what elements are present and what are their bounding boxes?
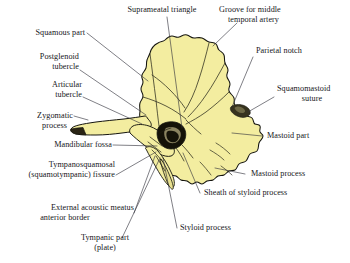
label-postglenoid-tubercle-line2: tubercle <box>0 62 79 72</box>
label-articular-tubercle-line1: Articular <box>0 80 82 90</box>
label-external-acoustic-meatus-line1: External acoustic meatus <box>0 203 134 213</box>
temporal-bone-diagram: Suprameatal triangle Groove for middle t… <box>0 0 350 263</box>
leader-squamous-part <box>87 33 148 81</box>
label-tympanosquamosal-fissure-line2: (squamotympanic) fissure <box>0 170 115 180</box>
label-articular-tubercle-line2: tubercle <box>0 90 82 100</box>
label-parietal-notch: Parietal notch <box>256 46 350 56</box>
label-external-acoustic-meatus-line2: anterior border <box>0 213 130 223</box>
label-sheath-of-styloid-process: Sheath of styloid process <box>204 188 350 198</box>
label-mandibular-fossa: Mandibular fossa <box>0 140 112 150</box>
label-squamous-part: Squamous part <box>0 28 85 38</box>
leader-tympanic-part <box>122 158 160 238</box>
leader-external-acoustic-meatus <box>134 156 155 213</box>
leader-tympanosquamosal-fissure <box>116 152 156 175</box>
label-groove-middle-temporal-artery-line2: temporal artery <box>228 15 350 25</box>
leader-groove-middle-temporal-artery <box>213 23 237 46</box>
leader-parietal-notch <box>232 57 253 107</box>
label-groove-middle-temporal-artery-line1: Groove for middle <box>219 5 349 15</box>
label-squamomastoid-suture-line1: Squamomastoid <box>277 84 350 94</box>
zygomatic-process-tip <box>71 128 86 135</box>
label-postglenoid-tubercle-line1: Postglenoid <box>0 52 79 62</box>
label-zygomatic-process-line1: Zygomatic <box>0 111 73 121</box>
label-squamomastoid-suture-line2: suture <box>277 94 347 104</box>
label-suprameatal-triangle: Suprameatal triangle <box>92 5 232 15</box>
leader-zygomatic-process <box>74 116 88 120</box>
label-mastoid-part: Mastoid part <box>267 131 350 141</box>
label-mastoid-process: Mastoid process <box>251 169 350 179</box>
label-styloid-process: Styloid process <box>180 223 280 233</box>
label-tympanosquamosal-fissure-line1: Tympanosquamosal <box>0 160 115 170</box>
label-tympanic-part-line1: Tympanic part <box>62 233 148 243</box>
leader-squamomastoid-suture <box>248 97 274 112</box>
label-zygomatic-process-line2: process <box>0 121 67 131</box>
leader-postglenoid-tubercle <box>80 70 146 115</box>
label-tympanic-part-line2: (plate) <box>62 243 148 253</box>
